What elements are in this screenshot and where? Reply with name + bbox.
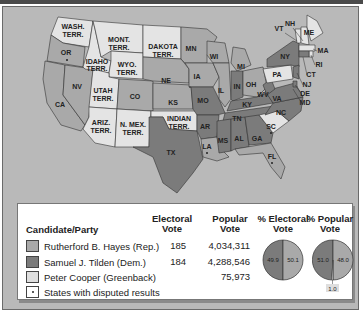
svg-text:N. MEX.: N. MEX.	[120, 121, 146, 128]
svg-text:TERR.: TERR.	[63, 31, 84, 38]
top-bar	[0, 0, 363, 4]
svg-text:IL: IL	[218, 87, 225, 94]
svg-text:AL: AL	[234, 135, 244, 142]
svg-text:UTAH: UTAH	[94, 87, 113, 94]
svg-text:ME: ME	[304, 29, 315, 36]
legend-panel: Candidate/Party ElectoralVote PopularVot…	[17, 203, 353, 300]
svg-text:OH: OH	[246, 81, 257, 88]
disputed-marker-or	[66, 59, 68, 61]
svg-text:IDAHO: IDAHO	[86, 58, 109, 65]
state-ri	[309, 51, 313, 57]
state-de	[293, 81, 297, 87]
header-pct-popular: % PopularVote	[306, 214, 354, 234]
svg-text:TX: TX	[167, 149, 176, 156]
disputed-marker-fl	[271, 162, 273, 164]
svg-text:IN: IN	[234, 83, 241, 90]
state-vt	[295, 29, 301, 43]
svg-text:TN: TN	[232, 115, 241, 122]
svg-text:NJ: NJ	[303, 81, 312, 88]
disputed-marker-la	[206, 152, 208, 154]
svg-text:FL: FL	[268, 153, 277, 160]
svg-text:DAKOTA: DAKOTA	[148, 43, 177, 50]
svg-text:DE: DE	[300, 90, 310, 97]
svg-text:MS: MS	[218, 137, 229, 144]
state-ms	[217, 119, 231, 153]
svg-text:TERR.: TERR.	[87, 65, 108, 72]
svg-text:49.9: 49.9	[267, 257, 279, 263]
legend-row-cooper: Peter Cooper (Greenback)	[26, 270, 156, 284]
svg-text:WV: WV	[257, 91, 269, 98]
svg-text:CO: CO	[130, 93, 141, 100]
svg-text:INDIAN: INDIAN	[167, 115, 191, 122]
svg-text:RI: RI	[316, 61, 323, 68]
svg-text:MD: MD	[300, 99, 311, 106]
svg-text:KY: KY	[242, 101, 252, 108]
svg-text:OR: OR	[61, 49, 72, 56]
svg-text:IA: IA	[194, 73, 201, 80]
state-nj	[293, 65, 299, 79]
svg-text:MONT.: MONT.	[108, 36, 130, 43]
us-election-map: WASH. TERR. OR CA NV IDAHO TERR. MONT. T…	[3, 7, 360, 207]
pie-electoral: 49.9 50.1	[262, 239, 304, 281]
svg-text:LA: LA	[202, 143, 211, 150]
svg-text:CA: CA	[55, 101, 65, 108]
svg-text:WYO.: WYO.	[118, 61, 137, 68]
svg-text:KS: KS	[168, 99, 178, 106]
map-frame: WASH. TERR. OR CA NV IDAHO TERR. MONT. T…	[2, 6, 359, 310]
svg-text:51.0: 51.0	[317, 257, 329, 263]
header-electoral: ElectoralVote	[144, 214, 200, 234]
swatch-greenback	[26, 271, 39, 283]
svg-text:VA: VA	[272, 95, 281, 102]
svg-text:NY: NY	[280, 53, 290, 60]
svg-text:TERR.: TERR.	[93, 95, 114, 102]
swatch-democrat	[26, 256, 39, 268]
svg-text:MI: MI	[237, 63, 245, 70]
header-candidate: Candidate/Party	[26, 225, 98, 235]
svg-text:1.0: 1.0	[328, 286, 337, 292]
svg-text:WI: WI	[210, 53, 219, 60]
legend-row-tilden: Samuel J. Tilden (Dem.)	[26, 255, 146, 269]
swatch-republican	[26, 240, 39, 252]
svg-text:MA: MA	[318, 47, 329, 54]
svg-text:CT: CT	[306, 71, 316, 78]
svg-text:TERR.: TERR.	[169, 123, 190, 130]
svg-text:NH: NH	[285, 20, 295, 27]
state-fl	[235, 143, 285, 179]
svg-text:AR: AR	[200, 123, 210, 130]
state-ia	[185, 63, 219, 87]
svg-text:TERR.: TERR.	[91, 127, 112, 134]
svg-text:TERR.: TERR.	[117, 69, 138, 76]
pie-popular: 51.0 48.0 1.0	[312, 239, 354, 295]
svg-text:48.0: 48.0	[337, 257, 349, 263]
svg-text:GA: GA	[252, 135, 263, 142]
svg-text:NC: NC	[276, 109, 286, 116]
swatch-disputed	[26, 286, 39, 298]
legend-row-disputed: States with disputed results	[26, 285, 160, 299]
svg-text:TERR.: TERR.	[109, 44, 130, 51]
svg-text:NV: NV	[72, 83, 82, 90]
header-popular: PopularVote	[200, 214, 260, 234]
svg-text:PA: PA	[272, 71, 281, 78]
svg-text:NE: NE	[161, 77, 171, 84]
state-ct	[299, 51, 309, 57]
state-nmex-terr	[115, 109, 151, 147]
disputed-marker-sc	[270, 132, 272, 134]
svg-text:SC: SC	[266, 123, 276, 130]
header-pct-electoral: % ElectoralVote	[256, 214, 310, 234]
svg-text:WASH.: WASH.	[62, 23, 85, 30]
svg-text:50.1: 50.1	[287, 257, 299, 263]
svg-text:ARIZ.: ARIZ.	[92, 119, 110, 126]
svg-text:TERR.: TERR.	[123, 129, 144, 136]
state-me	[307, 15, 323, 41]
legend-row-hayes: Rutherford B. Hayes (Rep.)	[26, 239, 159, 253]
svg-text:MN: MN	[186, 45, 197, 52]
svg-text:MO: MO	[197, 97, 209, 104]
svg-text:VT: VT	[275, 25, 285, 32]
state-ma	[299, 45, 315, 51]
svg-text:TERR.: TERR.	[153, 51, 174, 58]
